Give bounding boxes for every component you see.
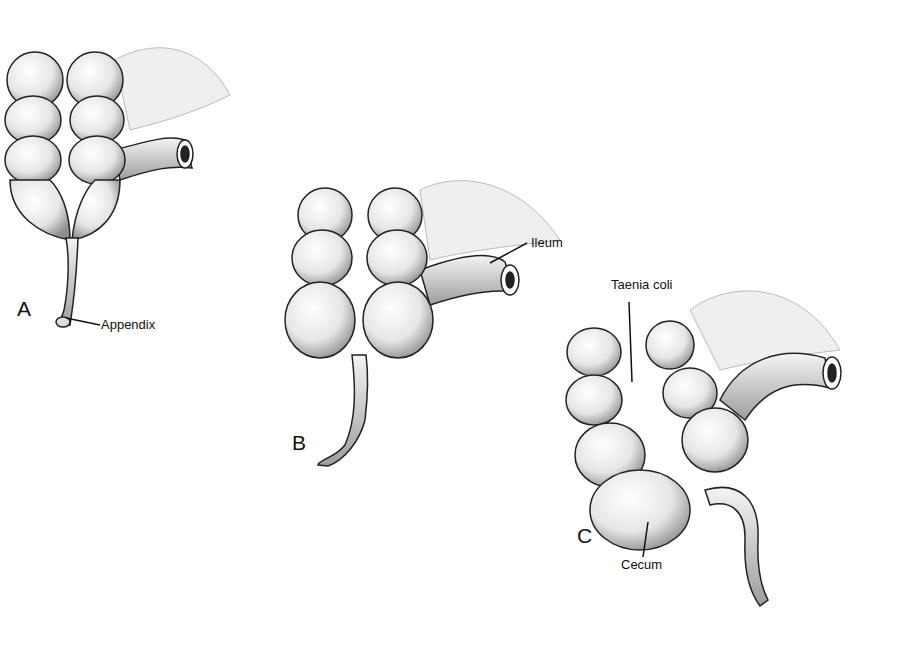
panel-letter-c: C bbox=[577, 524, 592, 548]
taenia-coli-label: Taenia coli bbox=[611, 277, 672, 292]
appendix-label: Appendix bbox=[101, 317, 155, 332]
panel-letter-a: A bbox=[17, 297, 31, 321]
panel-c-drawing bbox=[566, 291, 841, 606]
panel-b-drawing bbox=[285, 181, 560, 466]
ileum-label: Ileum bbox=[531, 235, 563, 250]
cecum-label: Cecum bbox=[621, 557, 662, 572]
panel-letter-b: B bbox=[292, 431, 306, 455]
taenia-coli-leader bbox=[629, 302, 632, 382]
panel-a-drawing bbox=[5, 48, 230, 327]
